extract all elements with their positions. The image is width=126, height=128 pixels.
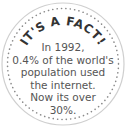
fact-badge: IT'S A FACT! In 1992, 0.4% of the world'… xyxy=(0,0,126,128)
badge-line: 0.4% of the world's xyxy=(0,54,126,67)
badge-line: 30%. xyxy=(0,104,126,117)
badge-body: In 1992, 0.4% of the world's population … xyxy=(0,41,126,117)
badge-line: In 1992, xyxy=(0,41,126,54)
badge-line: population used xyxy=(0,66,126,79)
badge-line: Now its over xyxy=(0,91,126,104)
badge-line: the internet. xyxy=(0,79,126,92)
